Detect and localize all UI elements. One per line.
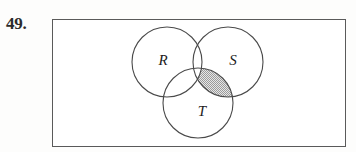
- venn-diagram-figure: R S T: [0, 0, 356, 152]
- universal-set-rectangle: [53, 20, 346, 147]
- set-label-r: R: [157, 52, 167, 68]
- venn-diagram-canvas: R S T: [0, 0, 356, 152]
- set-label-s: S: [229, 52, 237, 68]
- figure-page: 49.: [0, 0, 356, 152]
